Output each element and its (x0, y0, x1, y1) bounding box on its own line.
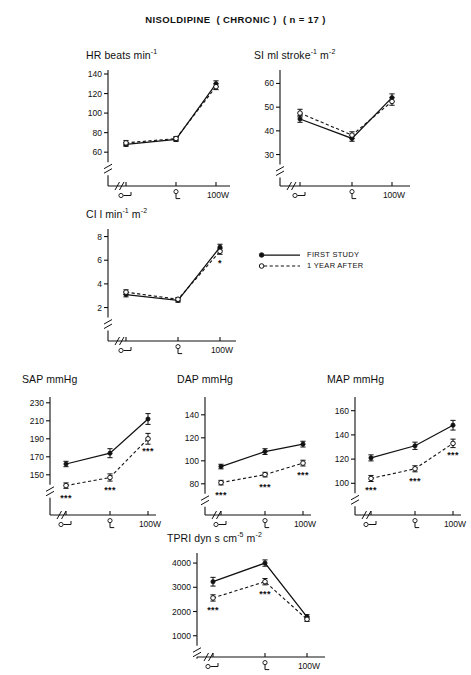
legend-sample-dashed (258, 261, 300, 271)
svg-text:2: 2 (97, 303, 102, 313)
panel-ci: CI l min-1 m-2 2468100W* (64, 207, 244, 353)
panel-si-title: SI ml stroke-1 m-2 (254, 48, 335, 61)
svg-text:100W: 100W (139, 519, 161, 529)
legend: FIRST STUDY 1 YEAR AFTER (258, 249, 363, 271)
svg-text:230: 230 (30, 398, 44, 408)
svg-text:3000: 3000 (172, 582, 191, 592)
svg-text:210: 210 (30, 416, 44, 426)
svg-text:30: 30 (265, 150, 275, 160)
svg-text:100W: 100W (211, 345, 233, 355)
panel-dap-title: DAP mmHg (177, 373, 233, 385)
svg-text:80: 80 (93, 128, 103, 138)
svg-text:***: *** (215, 490, 227, 500)
panel-dap-plot: 80100120140100W********* (163, 389, 315, 531)
svg-text:40: 40 (265, 126, 275, 136)
svg-text:100W: 100W (383, 190, 405, 200)
panel-tpri-plot: 1000200030004000100W****** (145, 547, 330, 671)
svg-text:170: 170 (30, 452, 44, 462)
svg-text:140: 140 (185, 410, 199, 420)
legend-label-one-year-after: 1 YEAR AFTER (307, 260, 363, 271)
panel-tpri-title: TPRI dyn s cm-5 m-2 (167, 531, 262, 544)
legend-sample-solid (258, 250, 300, 260)
legend-label-first-study: FIRST STUDY (307, 249, 359, 260)
panel-hr-plot: 6080100120140100W (64, 64, 239, 196)
svg-text:4000: 4000 (172, 558, 191, 568)
svg-text:2000: 2000 (172, 607, 191, 617)
svg-text:100W: 100W (207, 190, 229, 200)
svg-text:8: 8 (97, 232, 102, 242)
panel-ci-title: CI l min-1 m-2 (86, 207, 147, 220)
panel-map-title: MAP mmHg (327, 373, 384, 385)
svg-text:80: 80 (190, 479, 200, 489)
figure-canvas: NISOLDIPINE ( CHRONIC ) ( n = 17 ) HR be… (0, 0, 471, 675)
panel-sap: SAP mmHg 150170190210230100W********* (8, 373, 160, 533)
svg-text:100: 100 (88, 108, 102, 118)
svg-text:50: 50 (265, 102, 275, 112)
svg-text:120: 120 (335, 454, 349, 464)
svg-text:6: 6 (97, 255, 102, 265)
svg-text:140: 140 (88, 69, 102, 79)
legend-item-first-study: FIRST STUDY (258, 249, 363, 260)
svg-text:190: 190 (30, 434, 44, 444)
svg-text:100: 100 (185, 456, 199, 466)
panel-sap-title: SAP mmHg (22, 373, 77, 385)
svg-text:*: * (218, 258, 222, 268)
svg-text:60: 60 (93, 147, 103, 157)
panel-sap-plot: 150170190210230100W********* (8, 389, 160, 531)
svg-text:4: 4 (97, 279, 102, 289)
panel-hr-title: HR beats min-1 (86, 48, 157, 61)
svg-text:60: 60 (265, 78, 275, 88)
svg-text:***: *** (365, 485, 377, 495)
legend-item-one-year-after: 1 YEAR AFTER (258, 260, 363, 271)
figure-title: NISOLDIPINE ( CHRONIC ) ( n = 17 ) (0, 14, 471, 25)
svg-text:150: 150 (30, 470, 44, 480)
panel-dap: DAP mmHg 80100120140100W********* (163, 373, 315, 533)
panel-map: MAP mmHg 100120140160100W********* (313, 373, 465, 533)
svg-text:100: 100 (335, 478, 349, 488)
svg-text:***: *** (259, 589, 271, 599)
svg-text:1000: 1000 (172, 631, 191, 641)
svg-text:100W: 100W (444, 519, 466, 529)
svg-text:100W: 100W (298, 661, 320, 671)
panel-si: SI ml stroke-1 m-2 30405060100W (240, 48, 420, 196)
svg-text:***: *** (60, 493, 72, 503)
svg-text:***: *** (104, 485, 116, 495)
svg-text:***: *** (142, 446, 154, 456)
svg-text:120: 120 (185, 433, 199, 443)
svg-text:***: *** (297, 470, 309, 480)
svg-text:160: 160 (335, 406, 349, 416)
svg-text:***: *** (259, 482, 271, 492)
svg-text:120: 120 (88, 89, 102, 99)
svg-text:***: *** (447, 450, 459, 460)
panel-ci-plot: 2468100W* (64, 223, 244, 353)
panel-si-plot: 30405060100W (240, 64, 420, 196)
svg-text:***: *** (207, 605, 219, 615)
panel-map-plot: 100120140160100W********* (313, 389, 465, 531)
panel-tpri: TPRI dyn s cm-5 m-2 1000200030004000100W… (145, 531, 330, 671)
svg-text:***: *** (409, 476, 421, 486)
panel-hr: HR beats min-1 6080100120140100W (64, 48, 239, 196)
svg-text:140: 140 (335, 430, 349, 440)
